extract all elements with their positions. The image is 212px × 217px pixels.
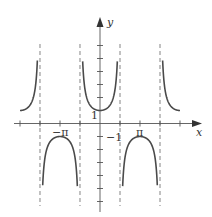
secant-branch [123,137,158,187]
tick-label-neg-pi: −π [52,126,68,139]
y-axis-label: y [106,16,114,29]
tick-label-one: 1 [91,109,98,122]
secant-branch [43,137,78,187]
tick-label-pi: π [136,126,143,139]
secant-graph: x y −π π 1 −1 [0,0,212,217]
x-axis-label: x [196,126,203,139]
secant-branch [163,60,180,110]
secant-branch [20,60,37,110]
y-axis-arrow-icon [97,17,104,27]
tick-label-neg-one: −1 [106,131,122,144]
